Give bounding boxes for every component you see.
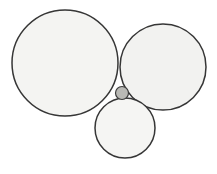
tangent-circles-diagram: [0, 0, 217, 174]
figure-canvas: [0, 0, 217, 174]
small-bottom-circle: [95, 98, 155, 158]
inner-tangent-circle: [116, 87, 129, 100]
large-left-circle: [12, 10, 118, 116]
medium-right-circle: [120, 24, 206, 110]
